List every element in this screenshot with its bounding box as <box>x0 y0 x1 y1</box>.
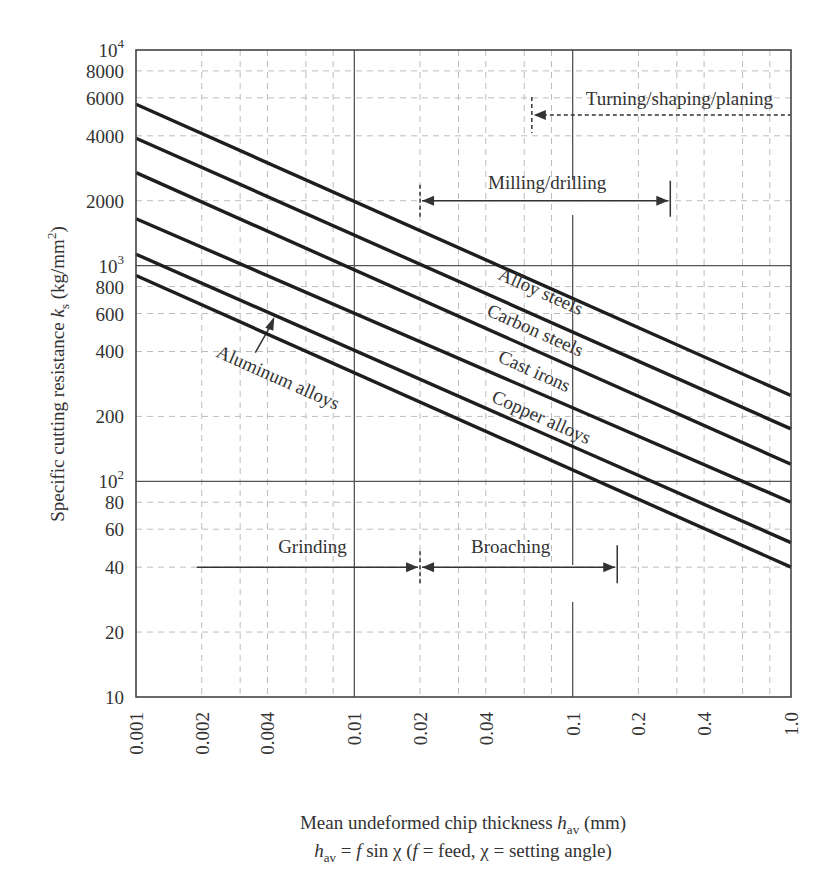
y-tick-label: 6000 <box>86 88 124 109</box>
y-tick-label: 40 <box>105 557 124 578</box>
series-line-carbon-steels <box>136 138 791 429</box>
arrowhead-icon <box>422 562 434 572</box>
y-tick-label: 800 <box>96 277 125 298</box>
arrowhead-icon <box>406 562 418 572</box>
y-tick-label: 2000 <box>86 191 124 212</box>
y-tick-label: 103 <box>99 252 125 277</box>
y-tick-label: 102 <box>99 467 125 492</box>
chart: Turning/shaping/planingMilling/drillingG… <box>0 0 838 890</box>
process-label-turning-shaping-planing: Turning/shaping/planing <box>586 88 774 109</box>
arrowhead-icon <box>534 110 546 120</box>
series-line-unlabeled <box>136 254 791 542</box>
process-label-broaching: Broaching <box>471 536 551 557</box>
x-tick-label: 0.2 <box>628 712 649 736</box>
x-tick-label: 0.004 <box>257 712 278 755</box>
material-lines <box>136 104 791 567</box>
y-tick-label: 60 <box>105 519 124 540</box>
y-tick-label: 200 <box>96 406 125 427</box>
y-axis-tick-labels: 1048000600040002000103800600400200102806… <box>86 36 125 708</box>
x-tick-label: 1.0 <box>781 712 802 736</box>
arrowhead-icon <box>422 196 434 206</box>
x-axis-tick-labels: 0.0010.0020.0040.010.020.040.10.20.41.0 <box>126 712 802 755</box>
x-tick-label: 0.1 <box>563 712 584 736</box>
y-tick-label: 20 <box>105 622 124 643</box>
y-tick-label: 8000 <box>86 61 124 82</box>
process-label-grinding: Grinding <box>278 536 347 557</box>
x-tick-label: 0.04 <box>476 712 497 746</box>
y-tick-label: 104 <box>99 36 125 61</box>
process-range-annotations: Turning/shaping/planingMilling/drillingG… <box>197 88 791 583</box>
y-tick-label: 80 <box>105 492 124 513</box>
arrowhead-icon <box>603 562 615 572</box>
y-tick-label: 10 <box>105 687 124 708</box>
y-tick-label: 4000 <box>86 126 124 147</box>
x-tick-label: 0.02 <box>410 712 431 745</box>
y-axis-title: Specific cutting resistance ks (kg/mm2) <box>44 226 72 521</box>
y-tick-label: 400 <box>96 341 125 362</box>
x-axis-formula: hav = f sin χ (f = feed, χ = setting ang… <box>314 840 612 865</box>
x-axis-title: Mean undeformed chip thickness hav (mm) <box>300 812 626 837</box>
x-tick-label: 0.001 <box>126 712 147 755</box>
process-label-milling-drilling: Milling/drilling <box>488 172 607 193</box>
arrowhead-icon <box>656 196 668 206</box>
pointer-arrowhead-icon <box>265 317 274 331</box>
x-tick-label: 0.4 <box>694 712 715 736</box>
y-tick-label: 600 <box>96 304 125 325</box>
x-tick-label: 0.01 <box>344 712 365 745</box>
x-tick-label: 0.002 <box>192 712 213 755</box>
